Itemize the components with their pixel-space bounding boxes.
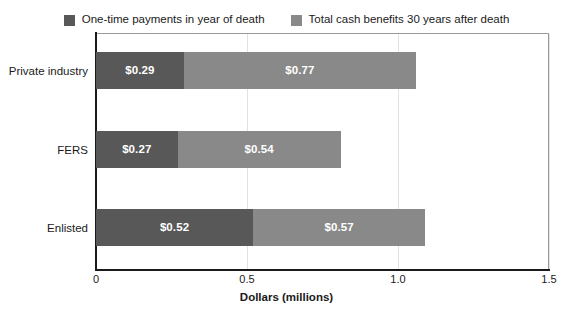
bar-value-label: $0.54 [244, 144, 273, 156]
bar-value-label: $0.29 [125, 65, 154, 77]
bar-value-label: $0.77 [285, 65, 314, 77]
bar-segment[interactable]: $0.54 [178, 131, 341, 168]
bar-row[interactable]: $0.29$0.77 [96, 52, 416, 89]
bar-segment[interactable]: $0.57 [253, 209, 425, 246]
bar-segment[interactable]: $0.52 [96, 209, 253, 246]
bar-segment[interactable]: $0.29 [96, 52, 184, 89]
bar-row[interactable]: $0.52$0.57 [96, 209, 425, 246]
category-label-fers: FERS [0, 131, 88, 168]
x-axis-title: Dollars (millions) [0, 292, 573, 304]
category-label-private-industry: Private industry [0, 52, 88, 89]
bar-value-label: $0.57 [324, 222, 353, 234]
bar-value-label: $0.27 [122, 144, 151, 156]
legend-item-total-cash-benefits: Total cash benefits 30 years after death [291, 14, 510, 26]
legend-item-one-time-payments: One-time payments in year of death [64, 14, 265, 26]
category-label-enlisted: Enlisted [0, 209, 88, 246]
bar-value-label: $0.52 [160, 222, 189, 234]
x-tick-label: 0 [93, 274, 99, 285]
legend-swatch-total-cash-benefits-icon [291, 15, 302, 26]
x-tick-label: 0.5 [239, 274, 254, 285]
x-tick-label: 1.0 [390, 274, 405, 285]
x-axis-line [95, 269, 550, 271]
legend-label-total-cash-benefits: Total cash benefits 30 years after death [309, 14, 510, 26]
legend-swatch-one-time-payments-icon [64, 15, 75, 26]
bar-segment[interactable]: $0.77 [184, 52, 417, 89]
bar-segment[interactable]: $0.27 [96, 131, 178, 168]
legend-label-one-time-payments: One-time payments in year of death [82, 14, 265, 26]
bar-row[interactable]: $0.27$0.54 [96, 131, 341, 168]
gridline-1.5 [549, 34, 550, 269]
chart-legend: One-time payments in year of death Total… [0, 10, 573, 30]
x-tick-label: 1.5 [541, 274, 556, 285]
